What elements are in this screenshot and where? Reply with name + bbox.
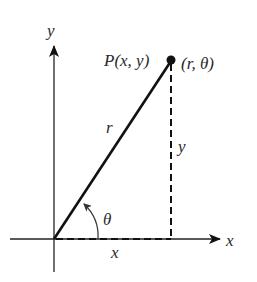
radius-line: [54, 61, 171, 239]
angle-label: θ: [103, 210, 111, 229]
point-p: [167, 56, 176, 65]
y-axis-label: y: [45, 21, 55, 40]
radius-label: r: [106, 118, 113, 137]
x-axis-label: x: [225, 231, 234, 250]
vertical-leg-label: y: [176, 137, 186, 156]
point-polar-label: (r, θ): [181, 54, 214, 73]
horizontal-leg-label: x: [110, 243, 119, 262]
polar-coordinates-diagram: y x P(x, y) (r, θ) r y θ x: [0, 0, 257, 282]
point-rect-label: P(x, y): [103, 51, 150, 70]
angle-arc: [84, 204, 98, 239]
